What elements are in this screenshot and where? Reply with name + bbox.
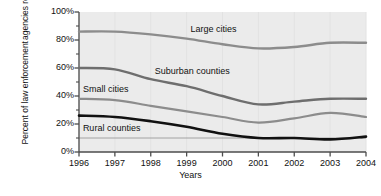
series-label-rural-counties: Rural counties [83,123,141,133]
x-axis-tick-label: 2003 [313,159,347,168]
x-axis-title-label: Years [179,170,202,180]
x-axis-tick-label: 1996 [62,159,96,168]
series-label-large-cities: Large cities [191,24,237,34]
gang-problems-line-chart: Percent of law enforcement agencies repo… [0,0,381,196]
series-label-suburban-counties: Suburban counties [155,66,230,76]
x-axis-tick-label: 1998 [134,159,168,168]
x-axis-title: Years [0,170,381,180]
x-axis-tick-label: 1999 [170,159,204,168]
x-axis-tick-label: 1997 [98,159,132,168]
series-label-small-cities: Small cities [83,84,129,94]
x-axis-tick-label: 2001 [241,159,275,168]
x-axis-tick-label: 2002 [277,159,311,168]
x-axis-tick-label: 2004 [349,159,381,168]
x-axis-tick-label: 2000 [206,159,240,168]
